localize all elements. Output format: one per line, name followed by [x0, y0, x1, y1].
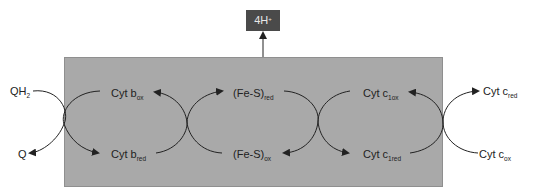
label-cyt-c-red: Cyt cred — [483, 85, 517, 99]
label-cyt-b-ox: Cyt box — [111, 87, 144, 101]
label-fes-red: (Fe-S)red — [233, 87, 274, 101]
label-cyt-c-ox: Cyt cox — [479, 148, 511, 162]
label-cyt-b-red: Cyt bred — [111, 148, 146, 162]
label-qh2: QH2 — [10, 85, 30, 99]
label-cyt-c1-ox: Cyt c1ox — [363, 87, 399, 101]
label-q: Q — [18, 148, 27, 160]
q-cycle-diagram: 4H+ QH2 Q Cyt box Cyt bred (Fe-S)red — [0, 0, 543, 196]
label-cyt-c1-red: Cyt c1red — [363, 148, 401, 162]
label-fes-ox: (Fe-S)ox — [233, 148, 271, 162]
